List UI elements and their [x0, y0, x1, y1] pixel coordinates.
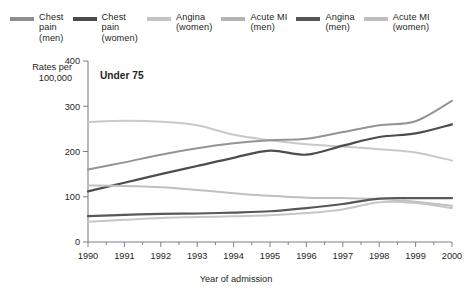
legend-swatch-angina-women: [147, 17, 171, 21]
x-tick-label: 2000: [442, 251, 462, 261]
chart-block: Rates per 100,000 0100200300400199019911…: [0, 52, 472, 302]
y-tick-label: 0: [75, 237, 80, 247]
legend-label-chest-pain-men: Chest pain (men): [39, 12, 64, 43]
legend-item-chest-pain-men: Chest pain (men): [10, 0, 64, 43]
x-tick-label: 1990: [78, 251, 98, 261]
chart-page: Chest pain (men)Chest pain (women)Angina…: [0, 0, 472, 302]
legend-item-acute-mi-men: Acute MI (men): [221, 0, 287, 33]
legend-swatch-angina-men: [296, 17, 320, 21]
x-tick-label: 1995: [260, 251, 280, 261]
x-axis-label: Year of admission: [0, 274, 472, 284]
legend-swatch-chest-pain-men: [10, 17, 34, 21]
x-tick-label: 1996: [296, 251, 316, 261]
legend-swatch-chest-pain-women: [73, 17, 97, 21]
legend-item-chest-pain-women: Chest pain (women): [73, 0, 138, 43]
y-tick-label: 100: [65, 192, 80, 202]
y-tick-label: 300: [65, 102, 80, 112]
x-tick-label: 1992: [151, 251, 171, 261]
legend-label-acute-mi-men: Acute MI (men): [250, 12, 287, 33]
line-chart-plot: 0100200300400199019911992199319941995199…: [0, 52, 472, 302]
legend-label-angina-women: Angina (women): [176, 12, 212, 33]
legend-label-angina-men: Angina (men): [325, 12, 354, 33]
panel-title: Under 75: [100, 70, 144, 81]
legend-label-acute-mi-women: Acute MI (women): [393, 12, 430, 33]
legend-label-chest-pain-women: Chest pain (women): [102, 12, 138, 43]
legend-item-angina-women: Angina (women): [147, 0, 212, 33]
y-tick-label: 400: [65, 56, 80, 66]
x-tick-label: 1999: [405, 251, 425, 261]
x-tick-label: 1993: [187, 251, 207, 261]
legend-item-angina-men: Angina (men): [296, 0, 354, 33]
legend-item-acute-mi-women: Acute MI (women): [364, 0, 430, 33]
x-tick-label: 1994: [223, 251, 243, 261]
x-tick-label: 1998: [369, 251, 389, 261]
legend-swatch-acute-mi-men: [221, 17, 245, 21]
chart-legend: Chest pain (men)Chest pain (women)Angina…: [0, 0, 472, 52]
y-tick-label: 200: [65, 147, 80, 157]
legend-swatch-acute-mi-women: [364, 17, 388, 21]
x-tick-label: 1991: [114, 251, 134, 261]
x-tick-label: 1997: [333, 251, 353, 261]
